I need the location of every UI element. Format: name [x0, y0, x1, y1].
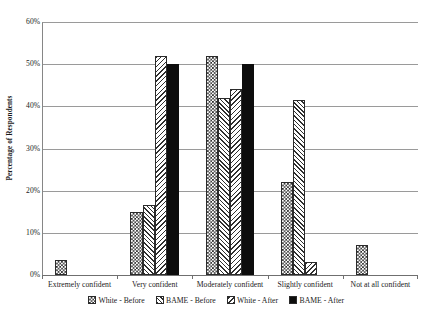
bar-chart-figure: Percentage of Respondents 0%10%20%30%40%…: [0, 0, 432, 319]
y-tick-label: 60%: [14, 18, 40, 26]
bar: [356, 245, 368, 275]
y-tick-label: 40%: [14, 102, 40, 110]
y-tick-label: 10%: [14, 229, 40, 237]
y-axis-tick-labels: 0%10%20%30%40%50%60%: [8, 0, 40, 319]
bars-layer: [42, 22, 418, 275]
bar-group: [268, 22, 343, 275]
bar: [206, 56, 218, 275]
legend-item[interactable]: White - After: [227, 296, 278, 305]
legend-item[interactable]: BAME - After: [289, 296, 344, 305]
x-tick-label: Extremely confident: [42, 279, 117, 290]
legend-label: White - Before: [98, 296, 144, 305]
bar: [242, 64, 254, 275]
x-tick-label: Moderately confident: [192, 279, 267, 290]
bar: [130, 212, 142, 275]
y-tick-label: 50%: [14, 60, 40, 68]
bar: [305, 262, 317, 275]
legend-swatch-icon: [289, 296, 297, 304]
bar: [281, 182, 293, 275]
legend-item[interactable]: BAME - Before: [156, 296, 216, 305]
bar: [167, 64, 179, 275]
legend-swatch-icon: [156, 296, 164, 304]
x-tick-label: Very confident: [117, 279, 192, 290]
bar: [293, 100, 305, 275]
legend-item[interactable]: White - Before: [88, 296, 145, 305]
bar: [155, 56, 167, 275]
x-axis-tick-labels: Extremely confidentVery confidentModerat…: [42, 279, 418, 292]
bar-group: [192, 22, 267, 275]
bar-group: [42, 22, 117, 275]
bar: [218, 98, 230, 275]
bar: [55, 260, 67, 275]
bar-group: [117, 22, 192, 275]
legend-label: BAME - Before: [166, 296, 216, 305]
legend-label: BAME - After: [300, 296, 344, 305]
legend-swatch-icon: [88, 296, 96, 304]
y-tick-label: 0%: [14, 271, 40, 279]
bar: [230, 89, 242, 275]
legend-swatch-icon: [227, 296, 235, 304]
x-tick-label: Not at all confident: [343, 279, 418, 290]
bar: [143, 205, 155, 275]
y-tick-label: 20%: [14, 187, 40, 195]
bar-group: [343, 22, 418, 275]
x-tick-label: Slightly confident: [268, 279, 343, 290]
y-tick-label: 30%: [14, 145, 40, 153]
legend-label: White - After: [237, 296, 278, 305]
chart-legend: White - BeforeBAME - BeforeWhite - After…: [0, 293, 432, 307]
